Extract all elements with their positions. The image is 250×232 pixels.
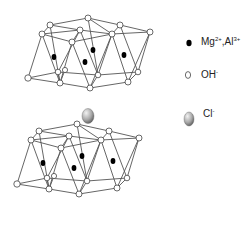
bottom-hydroxide-layer [14, 121, 142, 197]
legend: Mg2+,Al3+ OH- Cl- [184, 36, 241, 126]
chloride-icon [184, 112, 194, 126]
legend-label-chloride: Cl- [203, 108, 214, 119]
legend-label-hydroxide: OH- [201, 69, 218, 80]
top-hydroxide-layer [25, 15, 153, 91]
legend-item-metal: Mg2+,Al3+ [186, 36, 240, 47]
legend-item-chloride: Cl- [184, 108, 214, 126]
metal-cation-icon [186, 40, 191, 47]
chloride-ion [82, 109, 94, 124]
legend-item-hydroxide: OH- [185, 69, 218, 80]
legend-label-metal: Mg2+,Al3+ [201, 36, 241, 47]
hydroxide-icon [185, 72, 190, 79]
ldh-structure-diagram: Mg2+,Al3+ OH- Cl- [0, 0, 250, 232]
